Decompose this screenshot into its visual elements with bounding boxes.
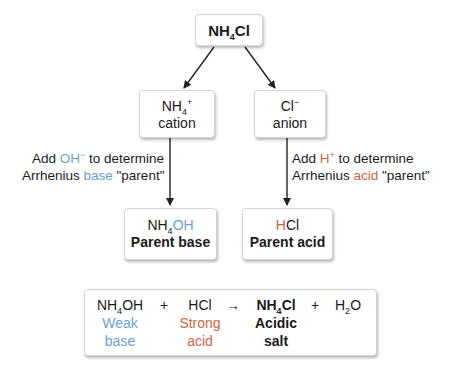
- eq-water: H2O: [330, 296, 366, 314]
- parent-acid-label: Parent acid: [243, 234, 332, 251]
- parent-acid-box: HCl Parent acid: [242, 208, 333, 260]
- eq-plus-1: +: [157, 296, 171, 314]
- anion-box: Cl− anion: [254, 90, 326, 138]
- anion-label: anion: [255, 115, 325, 132]
- arrow-to-cation: [184, 47, 214, 88]
- left-note: Add OH− to determine Arrhenius base "par…: [22, 150, 164, 184]
- arrow-to-anion: [245, 47, 275, 88]
- eq-acid: HCl Strong acid: [175, 296, 225, 350]
- parent-base-label: Parent base: [125, 234, 216, 251]
- eq-base: NH4OH Weak base: [94, 296, 146, 350]
- parent-base-box: NH4OH Parent base: [124, 208, 217, 260]
- eq-salt: NH4Cl Acidic salt: [250, 296, 302, 350]
- right-note: Add H+ to determine Arrhenius acid "pare…: [292, 150, 430, 184]
- diagram: NH4Cl NH4+ cation Cl− anion Add OH− to d…: [0, 0, 451, 375]
- cation-box: NH4+ cation: [139, 90, 215, 138]
- eq-arrow: →: [223, 296, 243, 314]
- salt-box: NH4Cl: [195, 14, 263, 46]
- eq-plus-2: +: [308, 296, 322, 314]
- cation-label: cation: [140, 115, 214, 132]
